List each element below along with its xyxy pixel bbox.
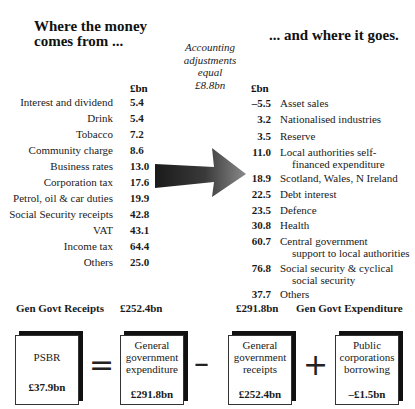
- expenditure-total-value: £291.8bn: [236, 302, 279, 314]
- expenditure-label: Others: [280, 288, 309, 300]
- expenditure-label-text: Central government: [280, 235, 368, 247]
- receipt-value: 17.6: [130, 176, 149, 188]
- receipt-value: 42.8: [130, 208, 149, 220]
- expenditure-label: Social security & cyclicalsocial securit…: [280, 262, 393, 286]
- box-label-line: receipts: [229, 363, 291, 375]
- expenditure-label: Asset sales: [280, 97, 329, 109]
- receipt-value: 43.1: [130, 224, 149, 236]
- box-amount: £252.4bn: [229, 388, 291, 400]
- receipt-label: Corporation tax: [44, 176, 113, 188]
- box-label-line: General: [121, 339, 183, 351]
- expenditure-label-text: Nationalised industries: [280, 113, 381, 125]
- expenditure-label-text: Health: [280, 219, 309, 231]
- box-label: General government expenditure: [121, 339, 183, 375]
- expenditure-label: Health: [280, 219, 309, 231]
- box-label-line: expenditure: [121, 363, 183, 375]
- receipt-value: 5.4: [130, 96, 144, 108]
- receipt-label: Drink: [87, 112, 113, 124]
- receipt-value: 5.4: [130, 112, 144, 124]
- expenditure-label-text: Asset sales: [280, 97, 329, 109]
- equals-operator: =: [89, 350, 114, 380]
- receipt-label: Income tax: [64, 240, 113, 252]
- receipt-value: 25.0: [130, 256, 149, 268]
- expenditure-total-label: Gen Govt Expenditure: [296, 302, 403, 314]
- general-government-expenditure-box: General government expenditure £291.8bn: [120, 335, 184, 405]
- expenditure-label-text: Debt interest: [280, 188, 337, 200]
- expenditure-label-text: Others: [280, 288, 309, 300]
- psbr-box: PSBR £37.9bn: [15, 335, 79, 405]
- receipt-label: Petrol, oil & car duties: [13, 192, 113, 204]
- expenditure-label: Reserve: [280, 130, 315, 142]
- expenditure-label: Local authorities self-financed expendit…: [280, 146, 385, 170]
- box-label-line: government: [121, 351, 183, 363]
- expenditure-value: 60.7: [252, 235, 271, 247]
- expenditure-label: Central governmentsupport to local autho…: [280, 235, 410, 259]
- note-line: equal: [160, 66, 260, 79]
- receipts-unit-header: £bn: [130, 82, 148, 94]
- receipts-title-line: comes from ...: [34, 34, 147, 49]
- expenditure-label: Scotland, Wales, N Ireland: [280, 172, 398, 184]
- expenditure-value: 30.8: [252, 219, 271, 231]
- expenditure-value: 18.9: [252, 172, 271, 184]
- receipt-label: Social Security receipts: [9, 208, 113, 220]
- expenditure-label: Nationalised industries: [280, 113, 381, 125]
- box-amount: –£1.5bn: [336, 388, 398, 400]
- box-label: PSBR: [16, 351, 78, 363]
- receipt-label: Tobacco: [76, 128, 113, 140]
- box-amount: £291.8bn: [121, 388, 183, 400]
- expenditure-value: 11.0: [252, 146, 271, 158]
- box-label-line: General: [229, 339, 291, 351]
- box-label: General government receipts: [229, 339, 291, 375]
- expenditure-value: 23.5: [252, 204, 271, 216]
- note-line: adjustments: [160, 54, 260, 67]
- expenditure-label: Defence: [280, 204, 317, 216]
- box-label-line: government: [229, 351, 291, 363]
- receipt-label: Community charge: [29, 144, 113, 156]
- receipt-value: 13.0: [130, 160, 149, 172]
- box-amount: £37.9bn: [16, 381, 78, 393]
- note-line: Accounting: [160, 41, 260, 54]
- receipt-label: Business rates: [50, 160, 113, 172]
- expenditure-value: 37.7: [252, 288, 271, 300]
- expenditure-label-text: Local authorities self-: [280, 146, 377, 158]
- minus-operator: –: [194, 348, 209, 378]
- plus-operator: +: [303, 350, 328, 380]
- general-government-receipts-box: General government receipts £252.4bn: [228, 335, 292, 405]
- expenditure-label-text: Defence: [280, 204, 317, 216]
- receipt-label: VAT: [93, 224, 113, 236]
- expenditure-value: –5.5: [252, 97, 271, 109]
- expenditure-label-text: Social security & cyclical: [280, 262, 393, 274]
- public-corporations-borrowing-box: Public corporations borrowing –£1.5bn: [335, 335, 399, 405]
- expenditure-label-continuation: social security: [280, 274, 393, 286]
- box-label-line: borrowing: [336, 363, 398, 375]
- expenditure-label: Debt interest: [280, 188, 337, 200]
- receipts-title-line: Where the money: [34, 19, 147, 34]
- receipt-value: 19.9: [130, 192, 149, 204]
- expenditure-unit-header: £bn: [251, 82, 269, 94]
- receipts-total-label: Gen Govt Receipts: [16, 302, 104, 314]
- receipts-total-value: £252.4bn: [120, 302, 163, 314]
- expenditure-value: 76.8: [252, 262, 271, 274]
- expenditure-value: 3.5: [257, 130, 271, 142]
- receipts-title: Where the money comes from ...: [34, 19, 147, 49]
- accounting-adjustments-note: Accounting adjustments equal £8.8bn: [160, 41, 260, 91]
- expenditure-title: ... and where it goes.: [269, 28, 399, 43]
- receipt-value: 7.2: [130, 128, 144, 140]
- expenditure-value: 22.5: [252, 188, 271, 200]
- expenditure-label-text: Scotland, Wales, N Ireland: [280, 172, 398, 184]
- receipt-value: 64.4: [130, 240, 149, 252]
- expenditure-label-text: Reserve: [280, 130, 315, 142]
- box-label-line: Public: [336, 339, 398, 351]
- box-label-line: corporations: [336, 351, 398, 363]
- flow-arrow-icon: [150, 140, 250, 202]
- expenditure-label-continuation: financed expenditure: [280, 158, 385, 170]
- receipt-label: Interest and dividend: [20, 96, 113, 108]
- box-label: Public corporations borrowing: [336, 339, 398, 375]
- expenditure-value: 3.2: [257, 113, 271, 125]
- receipt-label: Others: [84, 256, 113, 268]
- expenditure-label-continuation: support to local authorities: [280, 247, 410, 259]
- note-line: £8.8bn: [160, 79, 260, 92]
- receipt-value: 8.6: [130, 144, 144, 156]
